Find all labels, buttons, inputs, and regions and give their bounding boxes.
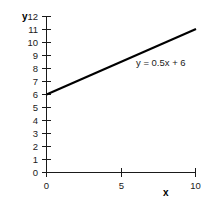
y-tick-label-0: 0	[16, 168, 38, 178]
y-tick-label-8: 8	[16, 64, 38, 74]
y-tick-label-3: 3	[16, 129, 38, 139]
x-axis-group	[47, 168, 197, 177]
y-tick-label-2: 2	[16, 142, 38, 152]
y-tick-label-1: 1	[16, 155, 38, 165]
x-tick-label-10: 10	[186, 181, 206, 191]
equation-annotation: y = 0.5x + 6	[136, 58, 186, 68]
y-tick-label-11: 11	[16, 25, 38, 35]
y-tick-label-9: 9	[16, 51, 38, 61]
y-tick-label-12: 12	[16, 12, 38, 22]
chart-figure: y x 12 11 10 9 8 7 6 5 4 3 2 1 0 0 5 10 …	[0, 0, 208, 208]
y-tick-label-7: 7	[16, 77, 38, 87]
x-tick-label-5: 5	[112, 181, 132, 191]
y-tick-label-10: 10	[16, 38, 38, 48]
y-tick-label-4: 4	[16, 116, 38, 126]
x-tick-label-0: 0	[37, 181, 57, 191]
y-tick-label-5: 5	[16, 103, 38, 113]
x-axis-title: x	[163, 188, 169, 198]
y-tick-label-6: 6	[16, 90, 38, 100]
